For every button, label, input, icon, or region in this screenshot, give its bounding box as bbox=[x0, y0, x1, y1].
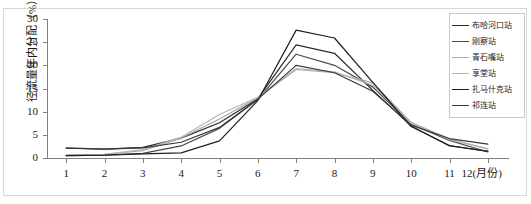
legend-label: 扎马什克站 bbox=[472, 85, 512, 94]
legend-label: 享堂站 bbox=[472, 69, 496, 78]
legend-line-swatch bbox=[452, 57, 469, 58]
x-tick-mark bbox=[258, 159, 259, 163]
x-tick-label: 8 bbox=[332, 167, 338, 179]
x-tick-mark bbox=[220, 159, 221, 163]
x-axis-line bbox=[47, 158, 509, 159]
x-tick-label: 1 bbox=[63, 167, 69, 179]
legend-line-swatch bbox=[452, 73, 469, 74]
legend-label: 青石嘴站 bbox=[472, 53, 504, 62]
x-tick-label: 2 bbox=[102, 167, 108, 179]
x-tick-mark bbox=[143, 159, 144, 163]
legend-label: 布哈河口站 bbox=[472, 21, 512, 30]
series-line bbox=[66, 54, 488, 155]
x-tick-mark bbox=[488, 159, 489, 163]
y-tick-mark bbox=[43, 112, 47, 113]
y-axis-title: 径流量年内分配（%） bbox=[23, 0, 39, 123]
x-tick-mark bbox=[105, 159, 106, 163]
chart-figure: 051015202530 123456789101112(月份) 径流量年内分配… bbox=[0, 0, 531, 204]
y-tick-mark bbox=[43, 65, 47, 66]
legend-label: 祁连站 bbox=[472, 101, 496, 110]
legend-item[interactable]: 布哈河口站 bbox=[452, 17, 522, 33]
series-line bbox=[66, 30, 488, 156]
series-line bbox=[66, 45, 488, 151]
series-line bbox=[66, 65, 488, 149]
y-tick-mark bbox=[43, 89, 47, 90]
chart-legend: 布哈河口站刚察站青石嘴站享堂站扎马什克站祁连站 bbox=[449, 13, 525, 118]
legend-item[interactable]: 享堂站 bbox=[452, 65, 522, 81]
x-tick-label: 6 bbox=[255, 167, 261, 179]
x-tick-label: 10 bbox=[406, 167, 417, 179]
legend-item[interactable]: 青石嘴站 bbox=[452, 49, 522, 65]
legend-line-swatch bbox=[452, 89, 469, 90]
x-tick-mark bbox=[296, 159, 297, 163]
x-tick-mark bbox=[450, 159, 451, 163]
x-tick-label: 12(月份) bbox=[462, 167, 502, 179]
x-tick-label: 11 bbox=[444, 167, 455, 179]
y-tick-mark bbox=[43, 19, 47, 20]
y-tick-mark bbox=[43, 42, 47, 43]
legend-line-swatch bbox=[452, 41, 469, 42]
x-tick-mark bbox=[411, 159, 412, 163]
x-tick-mark bbox=[335, 159, 336, 163]
x-tick-label: 4 bbox=[178, 167, 184, 179]
x-tick-label: 9 bbox=[370, 167, 376, 179]
series-lines bbox=[47, 19, 507, 158]
legend-item[interactable]: 刚察站 bbox=[452, 33, 522, 49]
y-tick-label: 5 bbox=[14, 129, 38, 140]
x-tick-label: 3 bbox=[140, 167, 146, 179]
y-tick-label: 0 bbox=[14, 152, 38, 163]
x-tick-label: 7 bbox=[293, 167, 299, 179]
legend-line-swatch bbox=[452, 105, 469, 106]
y-tick-mark bbox=[43, 135, 47, 136]
x-tick-label: 5 bbox=[217, 167, 223, 179]
legend-line-swatch bbox=[452, 25, 469, 26]
x-tick-mark bbox=[66, 159, 67, 163]
y-tick-mark bbox=[43, 158, 47, 159]
plot-area bbox=[47, 19, 507, 158]
x-tick-mark bbox=[181, 159, 182, 163]
legend-item[interactable]: 扎马什克站 bbox=[452, 81, 522, 97]
legend-item[interactable]: 祁连站 bbox=[452, 97, 522, 113]
legend-label: 刚察站 bbox=[472, 37, 496, 46]
x-tick-mark bbox=[373, 159, 374, 163]
